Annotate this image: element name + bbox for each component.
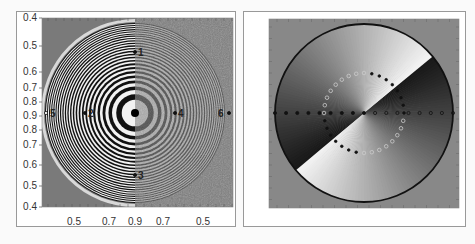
y-tick-label: 0.4 — [23, 12, 37, 23]
y-tick-label: 0.5 — [23, 180, 37, 191]
point-label: 3 — [138, 170, 144, 181]
y-tick-label: 0.6 — [23, 66, 37, 77]
phase-map-plot — [244, 12, 467, 228]
point-label: 4 — [178, 108, 184, 119]
y-tick-label: 0.9 — [23, 110, 37, 121]
x-tick-label: 0.7 — [156, 216, 170, 227]
point-label: 2 — [88, 108, 94, 119]
zone-plate-plot: 1234560.40.50.60.70.80.90.80.70.60.50.40… — [17, 12, 237, 228]
point-label: 6 — [218, 108, 224, 119]
point-label: 1 — [138, 47, 144, 58]
x-tick-label: 0.7 — [102, 216, 116, 227]
point-label: 5 — [50, 108, 56, 119]
y-tick-label: 0.4 — [23, 201, 37, 212]
x-tick-label: 0.5 — [67, 216, 81, 227]
y-tick-label: 0.8 — [23, 124, 37, 135]
right-chart-panel — [243, 11, 466, 227]
y-tick-label: 0.5 — [23, 40, 37, 51]
x-tick-label: 0.9 — [128, 216, 142, 227]
y-tick-label: 0.6 — [23, 159, 37, 170]
left-chart-panel: 1234560.40.50.60.70.80.90.80.70.60.50.40… — [16, 11, 236, 227]
y-tick-label: 0.7 — [23, 82, 37, 93]
y-tick-label: 0.7 — [23, 139, 37, 150]
x-tick-label: 0.5 — [196, 216, 210, 227]
y-tick-label: 0.8 — [23, 96, 37, 107]
